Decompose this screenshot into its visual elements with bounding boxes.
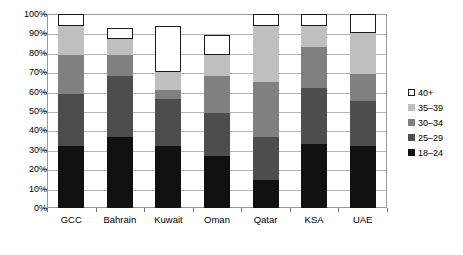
legend-swatch-icon: [408, 149, 415, 156]
bar-segment: [155, 26, 181, 73]
bar-stack: [107, 14, 133, 208]
y-tick-label: 50%: [5, 107, 47, 116]
chart-legend: 40+35–3930–3425–2918–24: [408, 85, 460, 160]
x-tick-mark: [387, 208, 388, 212]
bar-stack: [204, 14, 230, 208]
legend-swatch-icon: [408, 89, 415, 96]
bar-segment: [253, 180, 279, 208]
x-tick-mark: [241, 208, 242, 212]
bar-segment: [301, 47, 327, 88]
bar-segment: [204, 156, 230, 208]
bar-segment: [301, 26, 327, 47]
y-tick-label: 0%: [5, 204, 47, 213]
bar-segment: [58, 146, 84, 208]
bar-segment: [58, 14, 84, 26]
y-tick-label: 80%: [5, 49, 47, 58]
bar-segment: [204, 55, 230, 76]
bar-segment: [253, 14, 279, 26]
x-tick-label-qatar: Qatar: [241, 214, 290, 225]
y-tick-label: 70%: [5, 68, 47, 77]
bar-segment: [350, 14, 376, 33]
legend-item: 18–24: [408, 145, 460, 160]
bar-group: [58, 14, 84, 208]
y-tick-label: 40%: [5, 126, 47, 135]
y-axis: 0%10%20%30%40%50%60%70%80%90%100%: [0, 14, 47, 208]
x-tick-label-gcc: GCC: [47, 214, 96, 225]
x-axis: GCCBahrainKuwaitOmanQatarKSAUAE: [47, 208, 387, 232]
x-tick-mark: [47, 208, 48, 212]
legend-label: 35–39: [418, 103, 443, 113]
y-tick-label: 100%: [5, 10, 47, 19]
bar-segment: [107, 28, 133, 40]
x-tick-label-ksa: KSA: [290, 214, 339, 225]
bar-stack: [253, 14, 279, 208]
y-tick-label: 20%: [5, 165, 47, 174]
legend-item: 40+: [408, 85, 460, 100]
bar-segment: [253, 26, 279, 82]
bar-segment: [301, 88, 327, 144]
bar-stack: [301, 14, 327, 208]
bar-segment: [350, 101, 376, 146]
legend-item: 30–34: [408, 115, 460, 130]
legend-label: 40+: [418, 88, 433, 98]
bar-segment: [253, 82, 279, 137]
bar-segment: [253, 137, 279, 180]
bar-segment: [301, 144, 327, 208]
bar-segment: [107, 39, 133, 55]
bar-segment: [107, 76, 133, 137]
bar-segment: [107, 137, 133, 208]
x-tick-label-uae: UAE: [338, 214, 387, 225]
bar-stack: [58, 14, 84, 208]
legend-label: 25–29: [418, 133, 443, 143]
stacked-bar-chart: 0%10%20%30%40%50%60%70%80%90%100% GCCBah…: [0, 0, 463, 255]
x-tick-label-kuwait: Kuwait: [144, 214, 193, 225]
bar-segment: [58, 94, 84, 146]
bar-stack: [155, 14, 181, 208]
bars-layer: [47, 14, 387, 208]
legend-label: 30–34: [418, 118, 443, 128]
x-tick-mark: [290, 208, 291, 212]
bar-segment: [58, 55, 84, 94]
y-tick-label: 10%: [5, 185, 47, 194]
bar-segment: [204, 113, 230, 156]
bar-group: [107, 14, 133, 208]
bar-segment: [107, 55, 133, 76]
bar-stack: [350, 14, 376, 208]
legend-item: 25–29: [408, 130, 460, 145]
x-tick-mark: [144, 208, 145, 212]
legend-swatch-icon: [408, 104, 415, 111]
bar-group: [204, 14, 230, 208]
bar-segment: [301, 14, 327, 26]
x-tick-label-bahrain: Bahrain: [96, 214, 145, 225]
bar-segment: [155, 72, 181, 89]
legend-label: 18–24: [418, 148, 443, 158]
x-tick-mark: [193, 208, 194, 212]
bar-segment: [350, 33, 376, 74]
bar-group: [253, 14, 279, 208]
x-tick-mark: [96, 208, 97, 212]
legend-swatch-icon: [408, 119, 415, 126]
bar-segment: [155, 146, 181, 208]
bar-segment: [350, 74, 376, 101]
x-tick-mark: [338, 208, 339, 212]
bar-segment: [350, 146, 376, 208]
x-tick-label-oman: Oman: [193, 214, 242, 225]
legend-swatch-icon: [408, 134, 415, 141]
bar-group: [301, 14, 327, 208]
y-tick-label: 30%: [5, 146, 47, 155]
bar-segment: [155, 90, 181, 100]
bar-segment: [155, 99, 181, 146]
bar-group: [155, 14, 181, 208]
legend-item: 35–39: [408, 100, 460, 115]
bar-group: [350, 14, 376, 208]
bar-segment: [204, 35, 230, 54]
y-tick-label: 90%: [5, 29, 47, 38]
bar-segment: [58, 26, 84, 55]
y-tick-label: 60%: [5, 88, 47, 97]
bar-segment: [204, 76, 230, 113]
